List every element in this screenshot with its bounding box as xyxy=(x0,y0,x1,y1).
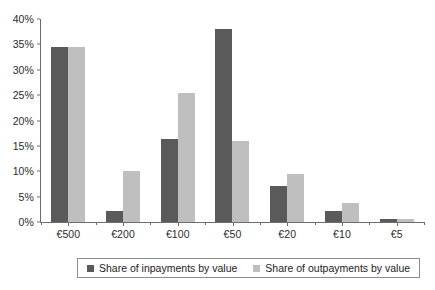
y-axis-tick-label: 20% xyxy=(0,115,40,127)
bar-group xyxy=(315,19,370,222)
x-axis-tick-mark xyxy=(287,222,288,226)
x-axis-tick-label: €200 xyxy=(111,228,135,240)
x-axis-tick-label: €50 xyxy=(224,228,242,240)
x-axis-tick-mark xyxy=(342,222,343,226)
y-axis-tick-label: 0% xyxy=(0,216,40,228)
plot-area xyxy=(41,19,424,222)
bar-group xyxy=(41,19,96,222)
x-axis-tick-mark xyxy=(233,222,234,226)
x-axis-tick-mark xyxy=(68,222,69,226)
bar-group xyxy=(205,19,260,222)
chart-legend: Share of inpayments by valueShare of out… xyxy=(77,258,420,278)
bar-inpayments xyxy=(325,211,342,222)
bar-inpayments xyxy=(106,211,123,222)
legend-label: Share of outpayments by value xyxy=(265,262,410,274)
x-axis-boundary-mark xyxy=(41,222,42,225)
y-axis-tick-label: 30% xyxy=(0,64,40,76)
bar-outpayments xyxy=(68,47,85,222)
legend-swatch-icon xyxy=(253,265,260,272)
y-axis-tick-mark xyxy=(37,145,40,146)
bar-inpayments xyxy=(161,139,178,222)
legend-item: Share of outpayments by value xyxy=(253,262,410,274)
x-axis-boundary-mark xyxy=(369,222,370,225)
y-axis-tick-mark xyxy=(37,19,40,20)
y-axis-tick-label: 10% xyxy=(0,165,40,177)
y-axis-tick-mark xyxy=(37,171,40,172)
legend-item: Share of inpayments by value xyxy=(87,262,237,274)
bar-outpayments xyxy=(178,93,195,222)
y-axis-tick-mark xyxy=(37,196,40,197)
x-axis-boundary-mark xyxy=(424,222,425,225)
y-axis-tick-label: 5% xyxy=(0,191,40,203)
bar-chart: 0%5%10%15%20%25%30%35%40% €500€200€100€5… xyxy=(0,0,435,290)
y-axis-tick-label: 15% xyxy=(0,140,40,152)
bar-group xyxy=(96,19,151,222)
x-axis-boundary-mark xyxy=(205,222,206,225)
x-axis-tick-mark xyxy=(123,222,124,226)
x-axis-tick-label: €100 xyxy=(166,228,190,240)
bar-group xyxy=(369,19,424,222)
bar-outpayments xyxy=(342,203,359,222)
y-axis-tick-label: 35% xyxy=(0,38,40,50)
y-axis-tick-mark xyxy=(37,44,40,45)
bar-outpayments xyxy=(287,174,304,222)
x-axis-boundary-mark xyxy=(150,222,151,225)
bar-inpayments xyxy=(270,186,287,222)
x-axis-tick-label: €5 xyxy=(391,228,403,240)
x-axis-boundary-mark xyxy=(96,222,97,225)
x-axis-tick-label: €10 xyxy=(333,228,351,240)
legend-label: Share of inpayments by value xyxy=(99,262,237,274)
bar-inpayments xyxy=(380,219,397,222)
bar-inpayments xyxy=(215,29,232,222)
x-axis-tick-label: €500 xyxy=(56,228,80,240)
bar-outpayments xyxy=(123,171,140,222)
x-axis-tick-mark xyxy=(178,222,179,226)
bar-outpayments xyxy=(232,141,249,222)
y-axis-tick-mark xyxy=(37,120,40,121)
bar-inpayments xyxy=(51,47,68,222)
y-axis-tick-label: 25% xyxy=(0,89,40,101)
y-axis-tick-label: 40% xyxy=(0,13,40,25)
y-axis-tick-mark xyxy=(37,222,40,223)
bar-outpayments xyxy=(397,219,414,222)
x-axis-tick-label: €20 xyxy=(278,228,296,240)
legend-swatch-icon xyxy=(87,265,94,272)
y-axis-tick-mark xyxy=(37,95,40,96)
bar-group xyxy=(260,19,315,222)
x-axis-tick-mark xyxy=(397,222,398,226)
bar-group xyxy=(150,19,205,222)
x-axis-boundary-mark xyxy=(260,222,261,225)
x-axis-boundary-mark xyxy=(315,222,316,225)
y-axis-tick-mark xyxy=(37,69,40,70)
